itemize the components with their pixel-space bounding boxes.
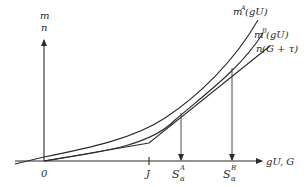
curve-mB xyxy=(44,33,263,161)
origin-label: 0 xyxy=(41,168,48,179)
marker-label-S-alpha-B: S B α xyxy=(223,164,236,183)
x-axis-label: gU, G xyxy=(266,156,294,167)
svg-text:(gU): (gU) xyxy=(245,6,268,17)
svg-text:A: A xyxy=(179,164,185,172)
curve-label-mA: m A (gU) xyxy=(233,4,268,17)
marker-label-S-alpha-A: S A α xyxy=(172,164,185,183)
svg-text:α: α xyxy=(231,175,236,183)
y-axis-label-m: m xyxy=(40,10,49,21)
curve-label-mB: m B (gU) xyxy=(254,27,289,40)
svg-text:α: α xyxy=(180,175,185,183)
svg-text:(gU): (gU) xyxy=(266,29,289,40)
svg-text:S: S xyxy=(223,168,231,181)
svg-text:S: S xyxy=(172,168,180,181)
curve-n xyxy=(44,46,270,161)
tick-label-J: J xyxy=(144,168,151,179)
svg-text:(G + τ): (G + τ) xyxy=(262,43,298,54)
economic-diagram: m n 0 J S A α S B α gU, G m A (gU) m B (… xyxy=(0,0,306,187)
y-axis-label-n: n xyxy=(41,22,47,33)
curve-label-n: n (G + τ) xyxy=(256,43,298,54)
svg-text:B: B xyxy=(230,164,236,172)
